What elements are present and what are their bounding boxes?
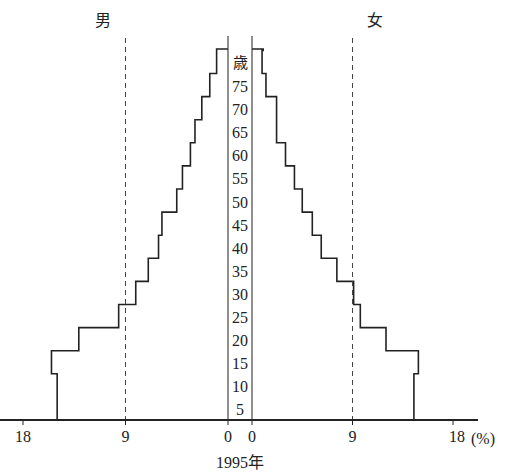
female-steps xyxy=(252,49,418,420)
x-axis-ticks: 18900918 xyxy=(15,420,465,445)
age-label: 20 xyxy=(232,332,248,349)
age-label: 5 xyxy=(236,401,244,418)
x-tick-label-male: 0 xyxy=(224,428,232,445)
male-steps xyxy=(51,49,228,420)
x-tick-label-female: 9 xyxy=(349,428,357,445)
x-tick-label-male: 18 xyxy=(15,428,31,445)
age-label: 40 xyxy=(232,240,248,257)
age-unit-label: 歳 xyxy=(233,55,248,71)
age-label: 60 xyxy=(232,147,248,164)
age-label: 45 xyxy=(232,217,248,234)
age-label: 70 xyxy=(232,101,248,118)
x-tick-label-male: 9 xyxy=(122,428,130,445)
x-tick-label-female: 18 xyxy=(449,428,465,445)
age-label: 35 xyxy=(232,263,248,280)
x-unit-label: (%) xyxy=(471,430,495,448)
x-tick-label-female: 0 xyxy=(248,428,256,445)
age-labels: 75706560555045403530252015105 xyxy=(232,78,248,418)
chart-title-year: 1995年 xyxy=(216,454,264,471)
age-label: 65 xyxy=(232,124,248,141)
age-label: 75 xyxy=(232,78,248,95)
age-label: 15 xyxy=(232,355,248,372)
female-label: 女 xyxy=(367,11,383,29)
age-label: 50 xyxy=(232,194,248,211)
age-label: 30 xyxy=(232,286,248,303)
age-label: 10 xyxy=(232,378,248,395)
male-label: 男 xyxy=(95,12,111,29)
population-pyramid-chart: 75706560555045403530252015105 18900918 男… xyxy=(0,0,508,475)
age-label: 25 xyxy=(232,309,248,326)
age-label: 55 xyxy=(232,170,248,187)
